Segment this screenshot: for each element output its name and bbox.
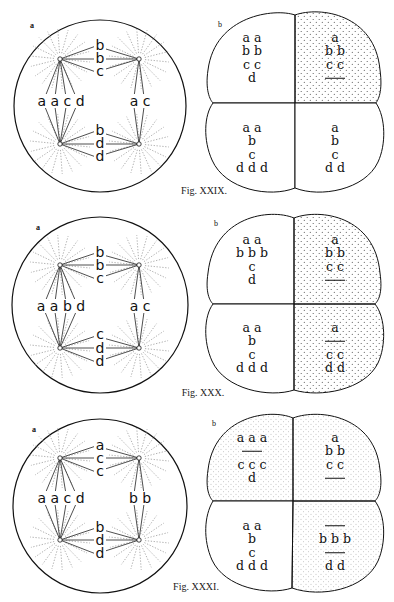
cell-chromosome-line: c c xyxy=(326,259,344,274)
panel-a-spindle-diagram: a b b c c d d a a b d a c xyxy=(12,217,188,393)
cell-chromosome-line: d d xyxy=(325,360,345,375)
centrosome-icon xyxy=(137,57,141,61)
cell-chromosome-line: d xyxy=(248,272,256,287)
panel-a-label: a xyxy=(36,223,40,232)
panel-a-spindle-diagram: a a c c b d d a a c d b b xyxy=(13,419,187,593)
chromosome-label: c xyxy=(96,270,104,286)
figure-30: a b b c c d d a a b d a c b xyxy=(0,198,394,398)
cell-chromosome-line: d xyxy=(248,470,256,485)
panel-a-label: a xyxy=(32,425,36,434)
panel-b-label: b xyxy=(214,219,218,228)
panel-a-spindle-diagram: a b b c b d d a a c d a c xyxy=(14,20,186,192)
panel-a-label: a xyxy=(30,21,34,30)
cell-chromosome-line: c c xyxy=(326,457,344,472)
cell-chromosome-line: d d xyxy=(325,558,345,573)
chromosome-label: c xyxy=(96,463,104,479)
chromosome-label: c xyxy=(96,63,104,79)
left-chromosome-group: a a b d xyxy=(37,298,85,314)
left-chromosome-group: a a c d xyxy=(37,490,84,506)
cell-chromosome-line: d d d xyxy=(236,160,268,175)
panel-b-label: b xyxy=(212,419,216,428)
centrosome-icon xyxy=(58,57,62,61)
right-chromosome-group: a c xyxy=(130,93,151,109)
figure-31: a a c c b d d a a c d b b b xyxy=(0,398,394,602)
right-chromosome-group: a c xyxy=(130,298,151,314)
chromosome-label: d xyxy=(96,148,105,164)
cell-chromosome-line: c c xyxy=(326,57,344,72)
cell-chromosome-line: a xyxy=(331,320,339,335)
panel-b-four-cell-stage: b a ab b bcdab bc ca abcd d dac cd d xyxy=(206,214,384,393)
centrosome-icon xyxy=(58,142,62,146)
right-chromosome-group: b b xyxy=(129,490,151,506)
cell-chromosome-line: a a a xyxy=(237,430,268,445)
figure-caption: Fig. XXIX. xyxy=(181,185,227,196)
panel-b-four-cell-stage: b a a ac c cdab bc ca abcd d db b bd d xyxy=(206,414,384,592)
cell-chromosome-line: d d d xyxy=(236,360,268,375)
figure-caption: Fig. XXXI. xyxy=(173,581,219,592)
figure-caption: Fig. XXX. xyxy=(182,387,225,398)
cell-chromosome-line: b b b xyxy=(319,531,351,546)
panel-b-four-cell-stage: b a ab bc cdab bc ca abcd d dabcd d xyxy=(206,12,384,192)
panel-b-label: b xyxy=(218,20,222,29)
cell-chromosome-line: d d xyxy=(325,160,345,175)
left-chromosome-group: a a c d xyxy=(37,93,84,109)
figure-29: a b b c b d d a a c d a c b xyxy=(0,0,394,200)
chromosome-label: d xyxy=(96,353,105,369)
cell-chromosome-line: d d d xyxy=(236,558,268,573)
centrosome-icon xyxy=(137,142,141,146)
chromosome-label: d xyxy=(96,545,105,561)
cell-chromosome-line: d xyxy=(248,70,256,85)
